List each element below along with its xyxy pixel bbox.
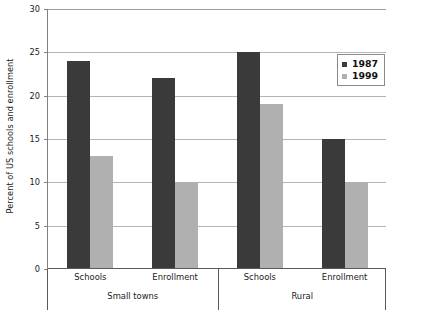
bar-1987-enrollment-3	[322, 139, 345, 269]
y-axis-tick-label: 30	[30, 4, 40, 14]
x-axis-group-label: Small towns	[107, 291, 158, 301]
y-axis-tick-label: 25	[30, 47, 40, 57]
bar-1987-schools-2	[237, 52, 260, 269]
y-axis-tick-label: 15	[30, 134, 40, 144]
legend-label: 1987	[352, 59, 378, 68]
x-axis-group-divider	[218, 269, 219, 310]
bar-1987-enrollment-1	[152, 78, 175, 269]
legend: 19871999	[337, 54, 385, 86]
bar-1999-schools-2	[260, 104, 283, 269]
bar-chart: Percent of US schools and enrollment 051…	[0, 0, 425, 315]
bars-layer	[48, 9, 386, 269]
x-axis-category-label: Enrollment	[322, 272, 368, 282]
y-axis-tick-labels: 051015202530	[18, 0, 43, 276]
x-axis-category-label: Schools	[244, 272, 276, 282]
legend-swatch-1987	[342, 62, 347, 67]
y-axis-tick-label: 5	[35, 221, 40, 231]
x-axis-category-label: Schools	[74, 272, 106, 282]
y-axis-title: Percent of US schools and enrollment	[0, 0, 18, 272]
legend-item-1987: 1987	[342, 58, 378, 70]
bar-1987-schools-0	[67, 61, 90, 269]
legend-label: 1999	[352, 71, 378, 80]
x-axis-category-label: Enrollment	[152, 272, 198, 282]
y-axis-tick-label: 10	[30, 177, 40, 187]
legend-item-1999: 1999	[342, 70, 378, 82]
plot-area	[47, 9, 386, 269]
legend-swatch-1999	[342, 74, 347, 79]
bar-1999-enrollment-3	[345, 182, 368, 269]
x-axis-group-label: Rural	[291, 291, 313, 301]
x-axis-label-band: SchoolsEnrollmentSchoolsEnrollmentSmall …	[47, 269, 386, 310]
y-axis-title-text: Percent of US schools and enrollment	[4, 58, 14, 213]
bar-1999-schools-0	[90, 156, 113, 269]
bar-1999-enrollment-1	[175, 182, 198, 269]
y-axis-tick-label: 0	[35, 264, 40, 274]
y-axis-tick-label: 20	[30, 91, 40, 101]
